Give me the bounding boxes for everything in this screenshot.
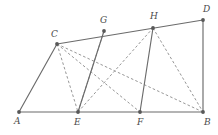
vertex-dot-c <box>55 42 59 46</box>
segment-C-D <box>57 20 203 44</box>
vertex-dot-e <box>76 110 80 114</box>
vertex-dot-f <box>138 110 142 114</box>
vertex-label-b: B <box>204 118 211 127</box>
figure-canvas <box>0 0 218 135</box>
vertex-label-h: H <box>150 12 158 21</box>
segment-F-H <box>140 28 153 112</box>
vertex-label-g: G <box>100 16 107 25</box>
segment-A-C <box>19 44 57 112</box>
vertex-label-d: D <box>203 5 210 14</box>
vertex-dot-a <box>17 110 21 114</box>
vertex-label-c: C <box>51 30 58 39</box>
vertex-label-e: E <box>74 118 81 127</box>
vertex-dot-b <box>201 110 205 114</box>
vertex-dot-h <box>151 26 155 30</box>
vertex-label-a: A <box>14 117 21 126</box>
vertex-dot-d <box>201 18 205 22</box>
segment-E-G <box>78 31 104 112</box>
vertex-label-f: F <box>137 118 143 127</box>
geometry-figure: ABCDEFGH <box>0 0 218 135</box>
segment-H-B <box>153 28 203 112</box>
segment-C-E <box>57 44 78 112</box>
vertex-dot-g <box>102 29 106 33</box>
segment-C-F <box>57 44 140 112</box>
